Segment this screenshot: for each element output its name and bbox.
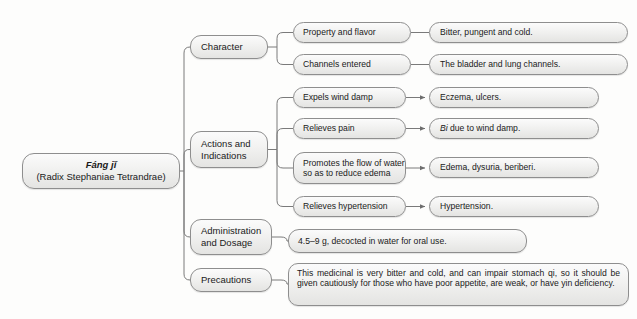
node-dosage-value[interactable]: 4.5–9 g, decocted in water for oral use. <box>288 229 527 253</box>
node-administration-label-line1: Administration <box>201 225 261 236</box>
node-expels-wind-damp[interactable]: Expels wind damp <box>293 87 406 108</box>
node-hypertension-value-text: Hypertension. <box>440 201 598 211</box>
edge-actions-relieves-pain <box>277 129 293 150</box>
node-actions-label-line2: Indications <box>201 150 246 161</box>
node-bi-italic-term: Bi <box>440 123 448 133</box>
node-promotes-flow-of-water[interactable]: Promotes the flow of water so as to redu… <box>293 152 406 184</box>
node-precautions[interactable]: Precautions <box>190 268 272 292</box>
node-administration-dosage[interactable]: Administration and Dosage <box>190 219 272 255</box>
edge-actions-promotes <box>277 150 293 169</box>
node-expels-wind-damp-label: Expels wind damp <box>303 92 405 102</box>
node-bladder-lung-channels-text: The bladder and lung channels. <box>440 59 627 69</box>
node-relieves-hypertension[interactable]: Relieves hypertension <box>293 196 406 217</box>
node-bitter-pungent-cold[interactable]: Bitter, pungent and cold. <box>429 22 628 43</box>
node-actions-indications[interactable]: Actions and Indications <box>190 131 268 168</box>
node-channels-entered[interactable]: Channels entered <box>293 54 411 75</box>
node-dosage-value-text: 4.5–9 g, decocted in water for oral use. <box>298 236 526 246</box>
node-actions-label-line1: Actions and <box>201 138 251 149</box>
mind-map-canvas: Fáng jǐ (Radix Stephaniae Tetrandrae) Ch… <box>0 0 637 319</box>
node-bitter-pungent-cold-text: Bitter, pungent and cold. <box>440 27 627 37</box>
node-administration-label-line2: and Dosage <box>201 237 252 248</box>
node-promotes-label-line1: Promotes the flow of water <box>303 158 405 168</box>
node-property-and-flavor-label: Property and flavor <box>303 27 410 37</box>
node-relieves-pain[interactable]: Relieves pain <box>293 118 406 139</box>
node-bi-wind-damp-text: due to wind damp. <box>448 123 521 133</box>
node-bi-wind-damp[interactable]: Bi due to wind damp. <box>429 118 599 139</box>
node-edema-dysuria-beriberi-text: Edema, dysuria, beriberi. <box>440 162 598 172</box>
node-character-label: Character <box>201 41 267 53</box>
node-relieves-hypertension-label: Relieves hypertension <box>303 201 405 211</box>
edge-character-channels <box>277 47 293 65</box>
node-eczema-ulcers[interactable]: Eczema, ulcers. <box>429 87 599 108</box>
node-root[interactable]: Fáng jǐ (Radix Stephaniae Tetrandrae) <box>22 153 180 189</box>
node-bladder-lung-channels[interactable]: The bladder and lung channels. <box>429 54 628 75</box>
node-edema-dysuria-beriberi[interactable]: Edema, dysuria, beriberi. <box>429 157 599 178</box>
edge-actions-expels <box>277 98 293 150</box>
edge-character-property <box>277 33 293 48</box>
node-precautions-value[interactable]: This medicinal is very bitter and cold, … <box>288 263 629 306</box>
edge-actions-relieves-hypertension <box>277 150 293 207</box>
node-hypertension-value[interactable]: Hypertension. <box>429 196 599 217</box>
node-channels-entered-label: Channels entered <box>303 59 410 69</box>
edge-root-precautions <box>184 171 190 280</box>
node-property-and-flavor[interactable]: Property and flavor <box>293 22 411 43</box>
root-label-latin: (Radix Stephaniae Tetrandrae) <box>36 171 165 182</box>
node-precautions-value-text: This medicinal is very bitter and cold, … <box>297 268 620 289</box>
root-label-pinyin: Fáng jǐ <box>86 159 117 170</box>
node-promotes-label-line2: so as to reduce edema <box>303 168 390 178</box>
edge-administration-dosage <box>272 237 288 241</box>
node-precautions-label: Precautions <box>201 274 271 286</box>
node-relieves-pain-label: Relieves pain <box>303 123 405 133</box>
edge-root-administration <box>184 171 190 237</box>
node-character[interactable]: Character <box>190 35 268 59</box>
edge-precautions-text <box>272 280 288 284</box>
node-eczema-ulcers-text: Eczema, ulcers. <box>440 92 598 102</box>
